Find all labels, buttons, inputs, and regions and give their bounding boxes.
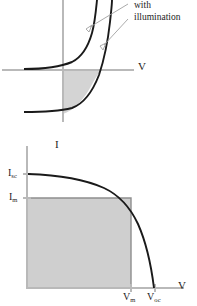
bottom-panel-diagram <box>0 130 197 306</box>
arrowhead-dark-icon <box>86 25 92 32</box>
bottom-voltage-axis-label: V <box>178 279 186 291</box>
annotation-line-1: with <box>134 0 151 11</box>
tick-label-vm-sub: m <box>130 296 135 303</box>
annotation-line-2: illumination <box>134 12 180 23</box>
maximum-power-rectangle <box>28 198 131 288</box>
top-voltage-axis-label: V <box>138 60 146 72</box>
tick-label-im-sub: m <box>12 196 17 203</box>
tick-label-im: Im <box>9 191 18 202</box>
dark-curve <box>24 0 97 69</box>
tick-label-vm: Vm <box>123 291 135 302</box>
power-quadrant-shading <box>63 70 101 114</box>
tick-label-voc-sub: oc <box>154 296 160 303</box>
figure-canvas: with illumination V I Isc Im Vm Voc V <box>0 0 197 306</box>
leader-line-illuminated <box>104 19 128 45</box>
tick-label-isc: Isc <box>8 167 17 178</box>
tick-label-voc: Voc <box>147 291 161 302</box>
tick-label-isc-sub: sc <box>11 172 17 179</box>
bottom-current-axis-label: I <box>55 138 59 150</box>
